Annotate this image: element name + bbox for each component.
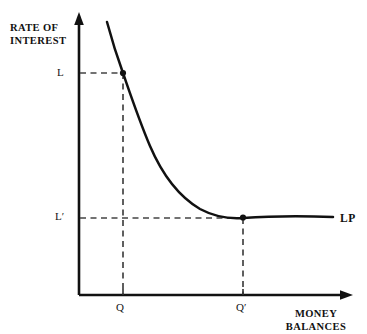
y-tick-label-l: L (57, 66, 64, 78)
y-axis-title-line2: INTEREST (10, 35, 66, 48)
guides-point-q-l (80, 73, 123, 294)
y-axis-title-line1: RATE OF (10, 22, 66, 35)
x-tick-label-q-prime: Q′ (236, 301, 246, 313)
x-axis-title-line1: MONEY (270, 308, 362, 321)
x-axis-title: MONEY BALANCES (270, 308, 362, 333)
liquidity-preference-chart: RATE OF INTEREST MONEY BALANCES L L′ Q Q… (0, 0, 367, 334)
x-axis-title-line2: BALANCES (270, 321, 362, 334)
chart-canvas (0, 0, 367, 334)
x-tick-label-q: Q (116, 301, 124, 313)
point-marker-qprime-lprime (240, 214, 246, 220)
y-tick-label-l-prime: L′ (55, 210, 64, 222)
x-axis (79, 290, 353, 300)
lp-curve (107, 22, 333, 218)
lp-curve-label: LP (340, 212, 356, 224)
y-axis (74, 12, 84, 295)
guides-point-qprime-lprime (80, 218, 243, 294)
point-marker-q-l (120, 70, 126, 76)
y-axis-title: RATE OF INTEREST (10, 22, 66, 47)
